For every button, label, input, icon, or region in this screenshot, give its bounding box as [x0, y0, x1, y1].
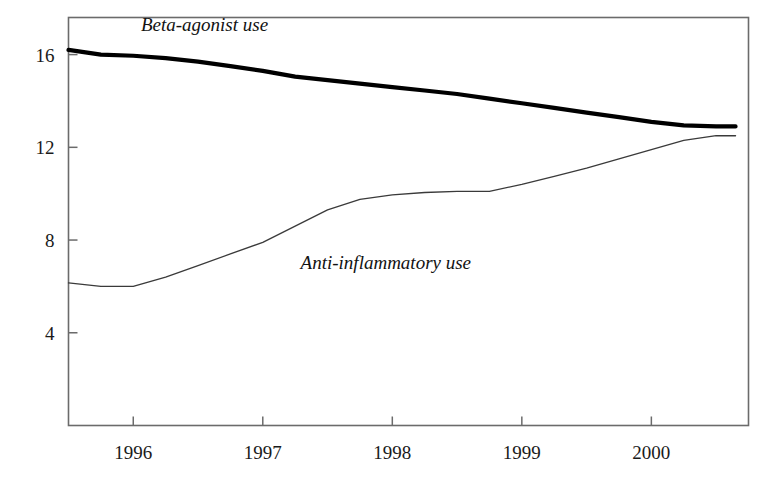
x-tick-label-1999: 1999: [503, 442, 541, 463]
y-tick-label-16: 16: [36, 45, 55, 66]
series-label-anti-inflammatory: Anti-inflammatory use: [299, 252, 471, 273]
x-tick-label-2000: 2000: [632, 442, 670, 463]
chart-figure: 481216 19961997199819992000 Beta-agonist…: [0, 0, 770, 496]
series-label-beta-agonist: Beta-agonist use: [141, 14, 268, 35]
y-tick-label-12: 12: [36, 137, 55, 158]
y-tick-label-4: 4: [45, 323, 55, 344]
line-chart-svg: 481216 19961997199819992000 Beta-agonist…: [0, 0, 770, 496]
x-tick-label-1996: 1996: [114, 442, 152, 463]
chart-background: [0, 0, 770, 496]
x-tick-label-1998: 1998: [373, 442, 411, 463]
y-tick-label-8: 8: [45, 230, 55, 251]
x-tick-label-1997: 1997: [244, 442, 282, 463]
